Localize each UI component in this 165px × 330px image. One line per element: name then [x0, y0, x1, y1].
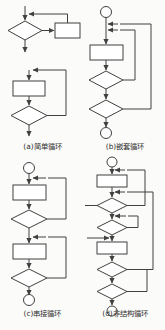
c-first-condition-diamond	[11, 210, 47, 228]
panel-c-serial-loop: (c)串接循环	[0, 155, 85, 330]
d-crossing-backedge-2	[127, 216, 138, 228]
d-third-condition-diamond	[97, 262, 127, 277]
a-while-condition-diamond	[8, 21, 42, 40]
b-start-circle	[101, 7, 112, 18]
c-end-circle	[24, 295, 35, 306]
panel-d-caption: (d)非结构循环	[85, 307, 165, 318]
panel-b-nested-loop: (b)嵌套循环	[85, 0, 165, 155]
d-start-circle	[107, 157, 117, 167]
panel-a-diagram	[0, 0, 85, 140]
c-first-backedge	[47, 178, 66, 219]
b-body-box	[90, 45, 123, 60]
c-start-circle	[24, 163, 35, 174]
a-until-condition-diamond	[11, 106, 47, 125]
flowchart-figure: (a)简单循环 (b)嵌套循环	[0, 0, 165, 330]
b-inner-condition-diamond	[89, 71, 123, 89]
b-outer-condition-diamond	[89, 100, 123, 118]
c-second-body-box	[13, 244, 46, 259]
panel-a-caption: (a)简单循环	[0, 140, 85, 151]
d-crossing-backedge-1	[127, 170, 145, 206]
c-first-body-box	[13, 185, 46, 200]
d-first-condition-diamond	[97, 198, 127, 213]
c-second-condition-diamond	[11, 269, 47, 287]
a-until-body-box	[13, 81, 45, 96]
panel-b-diagram	[85, 0, 165, 140]
panel-b-caption: (b)嵌套循环	[85, 140, 165, 151]
panel-c-caption: (c)串接循环	[0, 307, 85, 318]
d-second-condition-diamond	[97, 220, 127, 235]
panel-d-unstructured-loop: (d)非结构循环	[85, 155, 165, 330]
b-end-circle	[101, 128, 112, 139]
panel-c-diagram	[0, 155, 85, 305]
panel-d-diagram	[85, 155, 165, 305]
c-second-backedge	[47, 237, 66, 278]
a-backedge-top	[29, 14, 68, 23]
a-while-body-box	[55, 23, 80, 38]
panel-a-simple-loop: (a)简单循环	[0, 0, 85, 155]
d-crossing-backedge-4	[127, 270, 147, 292]
d-first-body-box	[97, 175, 127, 187]
d-second-body-box	[97, 242, 127, 254]
d-crossing-backedge-3	[127, 192, 153, 270]
d-fourth-condition-diamond	[97, 284, 127, 299]
